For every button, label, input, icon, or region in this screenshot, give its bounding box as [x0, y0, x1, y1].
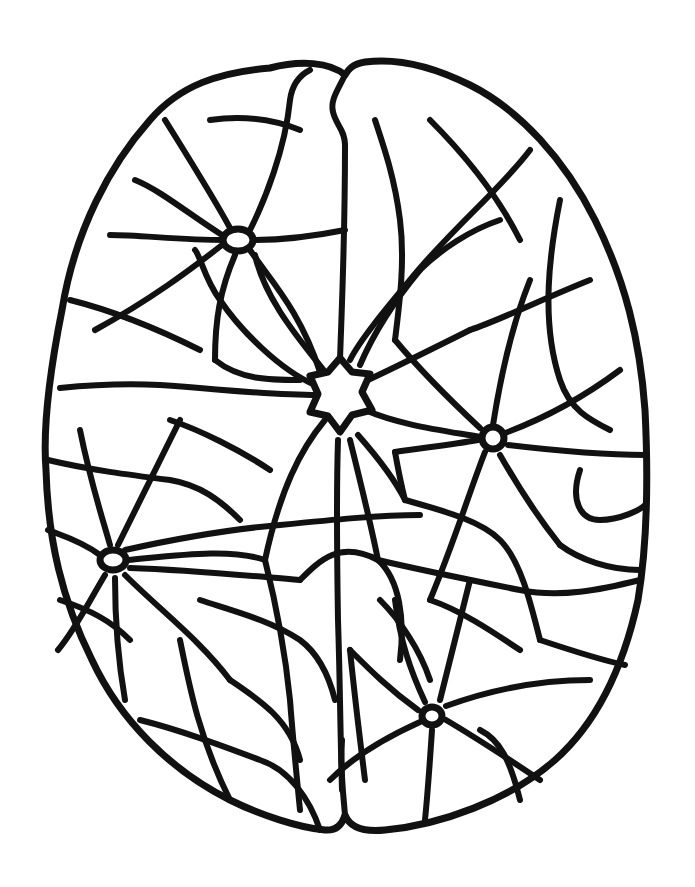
brain-illustration: [0, 0, 695, 887]
lower-right-neuron-node: [422, 707, 442, 725]
upper-left-neuron-node: [223, 229, 253, 251]
network-lines: [48, 70, 645, 830]
midline-fissure-top: [332, 75, 345, 145]
right-neuron-node: [482, 427, 504, 449]
brain-network-graphic: [0, 0, 695, 887]
left-neuron-node: [100, 550, 126, 570]
